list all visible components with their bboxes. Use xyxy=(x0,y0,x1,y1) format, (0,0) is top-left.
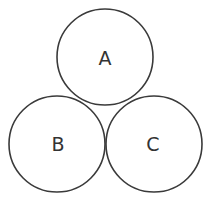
circle-a: A xyxy=(57,9,153,105)
circle-b: B xyxy=(9,96,105,192)
circle-c: C xyxy=(106,96,202,192)
circles-diagram: A B C xyxy=(0,0,210,213)
circle-b-label: B xyxy=(51,133,64,155)
circle-a-label: A xyxy=(99,47,112,69)
circle-c-label: C xyxy=(146,133,159,155)
diagram-canvas: A B C xyxy=(0,0,210,213)
